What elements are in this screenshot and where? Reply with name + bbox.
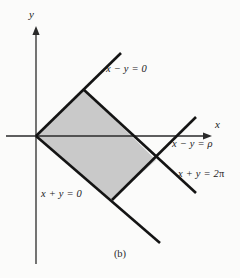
label-x-plus-y-equals-0: x + y = 0: [41, 188, 82, 199]
x-axis-label: x: [215, 118, 220, 130]
shaded-region: [36, 89, 156, 200]
label-x-minus-y-equals-0: x − y = 0: [106, 63, 147, 74]
y-axis-label: y: [29, 8, 34, 20]
label-x-minus-y-equals-rho: x − y = ρ: [172, 138, 213, 149]
label-x-plus-y-equals-2pi: x + y = 2π: [178, 168, 225, 179]
figure-container: y x x − y = 0 x − y = ρ x + y = 2π x + y…: [0, 0, 240, 278]
label-x-plus-y-equals-2pi-prefix: x + y = 2: [178, 168, 219, 179]
y-axis: [32, 26, 39, 264]
figure-caption: (b): [0, 248, 240, 259]
pi-symbol: π: [219, 168, 225, 179]
